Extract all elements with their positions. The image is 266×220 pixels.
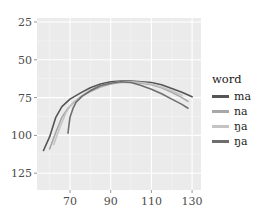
y-tick-label: 100: [11, 129, 32, 142]
legend-title: word: [212, 72, 251, 86]
x-tick-label: 70: [63, 195, 77, 208]
y-tick-label: 125: [11, 167, 32, 180]
x-tick-label: 130: [182, 195, 203, 208]
y-tick-label: 75: [18, 92, 32, 105]
legend-label: ŋa: [234, 120, 248, 133]
legend-label: ŋ̣a: [234, 135, 248, 148]
legend-item-nga: ŋa: [212, 119, 251, 134]
legend-label: na: [234, 105, 248, 118]
y-axis: 255075100125: [11, 16, 37, 180]
legend-items: ma na ŋa ŋ̣a: [212, 89, 251, 149]
legend-swatch-icon: [212, 95, 229, 98]
x-tick-label: 110: [141, 195, 162, 208]
legend: word ma na ŋa ŋ̣a: [212, 72, 251, 149]
legend-label: ma: [234, 90, 251, 103]
legend-swatch-icon: [212, 110, 229, 113]
x-axis: 7090110130: [63, 190, 203, 208]
legend-item-ma: ma: [212, 89, 251, 104]
y-tick-label: 50: [18, 54, 32, 67]
x-tick-label: 90: [104, 195, 118, 208]
plot-panel: [37, 18, 201, 190]
y-tick-label: 25: [18, 16, 32, 29]
legend-item-nga-dot: ŋ̣a: [212, 134, 251, 149]
legend-item-na: na: [212, 104, 251, 119]
legend-swatch-icon: [212, 125, 229, 128]
legend-swatch-icon: [212, 140, 229, 143]
